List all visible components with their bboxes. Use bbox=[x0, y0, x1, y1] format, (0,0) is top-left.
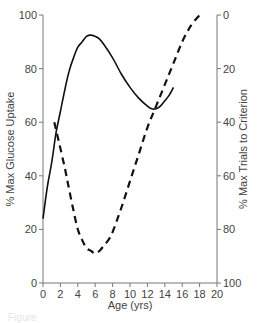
x-tick-label: 6 bbox=[92, 288, 98, 300]
left-y-axis-ticks: 020406080100 bbox=[19, 9, 43, 289]
y2-tick-label: 100 bbox=[223, 277, 241, 289]
x-axis-ticks: 02468101214161820 bbox=[40, 283, 223, 300]
figure-caption: Figure bbox=[8, 312, 36, 323]
y-tick-label: 80 bbox=[25, 63, 37, 75]
y2-tick-label: 80 bbox=[223, 223, 235, 235]
dual-axis-line-chart: 02468101214161820 020406080100 020406080… bbox=[0, 0, 260, 323]
y-tick-label: 40 bbox=[25, 170, 37, 182]
y-tick-label: 100 bbox=[19, 9, 37, 21]
y-tick-label: 0 bbox=[31, 277, 37, 289]
x-tick-label: 18 bbox=[193, 288, 205, 300]
x-tick-label: 16 bbox=[176, 288, 188, 300]
y-tick-label: 20 bbox=[25, 223, 37, 235]
y-tick-label: 60 bbox=[25, 116, 37, 128]
right-y-axis-title: % Max Trials to Criterion bbox=[237, 89, 249, 209]
x-tick-label: 0 bbox=[40, 288, 46, 300]
x-tick-label: 2 bbox=[57, 288, 63, 300]
x-tick-label: 20 bbox=[211, 288, 223, 300]
y2-tick-label: 20 bbox=[223, 63, 235, 75]
x-axis-title: Age (yrs) bbox=[108, 299, 153, 311]
left-y-axis-title: % Max Glucose Uptake bbox=[4, 92, 16, 207]
x-tick-label: 14 bbox=[159, 288, 171, 300]
y2-tick-label: 60 bbox=[223, 170, 235, 182]
glucose-uptake-line bbox=[43, 35, 174, 219]
y2-tick-label: 40 bbox=[223, 116, 235, 128]
x-tick-label: 4 bbox=[75, 288, 81, 300]
y2-tick-label: 0 bbox=[223, 9, 229, 21]
